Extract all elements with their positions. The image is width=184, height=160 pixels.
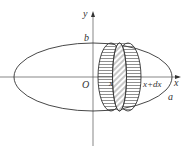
semi-major-label-a: a [168,91,173,102]
ellipsoid-slab-diagram: y b O x x+dx x a [0,0,184,160]
y-axis-label: y [82,8,88,19]
slab [98,43,141,111]
semi-minor-label-b: b [84,32,89,43]
slab-left-label: x [108,78,113,88]
origin-label: O [82,79,89,90]
slab-right-label: x+dx [142,79,162,89]
y-axis-arrow-icon [91,11,95,17]
y-axis [91,11,95,146]
x-axis-label: x [173,77,179,88]
